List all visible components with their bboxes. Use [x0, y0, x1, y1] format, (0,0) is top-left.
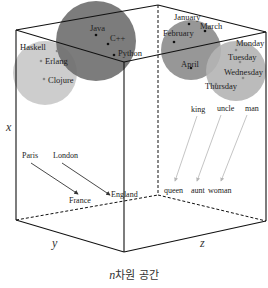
relations-layer: ParisFranceLondonEnglandkingqueenuncleau…	[22, 104, 259, 205]
relation-arrow	[197, 115, 221, 181]
point-label: C++	[110, 33, 125, 43]
relation-target-label: woman	[208, 186, 232, 195]
point-label: March	[200, 21, 223, 31]
relation-target-label: France	[69, 196, 91, 205]
relation-arrow	[31, 163, 78, 194]
point-label: Erlang	[45, 56, 68, 66]
point-marker	[40, 60, 43, 63]
relation-target-label: England	[111, 190, 138, 199]
point-label: Monday	[236, 38, 265, 48]
relation-target-label: queen	[164, 186, 183, 195]
point-label: April	[181, 59, 200, 69]
point-label: January	[174, 12, 201, 22]
cube-edge	[16, 220, 124, 252]
axis-label-z: z	[199, 236, 205, 250]
point-marker	[242, 77, 245, 80]
point-label: Python	[118, 48, 143, 58]
relation-source-label: king	[191, 105, 205, 114]
n-dimensional-space-diagram: ParisFranceLondonEnglandkingqueenuncleau…	[0, 0, 268, 288]
point-marker	[113, 54, 116, 57]
relation-target-label: aunt	[191, 186, 206, 195]
point-label: Thursday	[205, 81, 238, 91]
relation-arrow	[175, 116, 197, 181]
axes-layer: x y z	[5, 120, 205, 250]
relation-source-label: uncle	[217, 104, 235, 113]
relation-source-label: London	[53, 151, 78, 160]
point-marker	[95, 34, 98, 37]
figure-caption: n차원 공간	[0, 266, 268, 283]
point-marker	[107, 43, 110, 46]
relation-source-label: man	[245, 104, 259, 113]
point-label: Tuesday	[228, 52, 257, 62]
cube-hidden-edge	[158, 195, 266, 221]
axis-label-y: y	[51, 236, 58, 250]
point-marker	[188, 23, 191, 26]
point-marker	[43, 78, 46, 81]
point-marker	[56, 50, 59, 53]
relation-source-label: Paris	[22, 151, 38, 160]
relation-arrow	[221, 115, 247, 181]
point-label: Wednesday	[224, 67, 264, 77]
caption-text: 차원 공간	[115, 269, 159, 282]
point-marker	[173, 41, 176, 44]
point-label: February	[163, 28, 194, 38]
relation-arrow	[62, 163, 110, 195]
point-marker	[235, 49, 238, 52]
axis-label-x: x	[5, 120, 12, 134]
point-label: Clojure	[48, 75, 74, 85]
point-label: Java	[90, 23, 105, 33]
point-label: Haskell	[20, 42, 47, 52]
cube-edge	[124, 221, 266, 252]
